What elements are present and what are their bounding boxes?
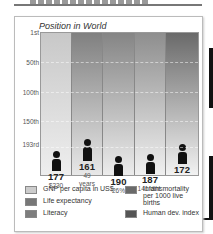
column-human-dev-index: 172 <box>166 33 198 175</box>
person-icon <box>115 156 122 163</box>
chart-card: Position in World 1st 50th 100th 150th 1… <box>14 16 203 232</box>
gridline <box>41 62 198 63</box>
y-tick-100th: 100th <box>17 89 39 96</box>
rank-value: 161 <box>79 162 95 172</box>
legend-item: Human dev. index <box>125 209 200 218</box>
rank-sublabel: 49 <box>83 172 90 180</box>
heading-rule <box>14 4 202 6</box>
column-literacy: 190 26% <box>103 33 135 175</box>
column-life-expectancy: 161 49 years <box>72 33 103 175</box>
legend-item: Literacy <box>25 209 115 218</box>
legend-right: Infant mortality per 1000 live births Hu… <box>125 185 200 221</box>
cut-off-heading <box>30 0 150 4</box>
page-edge-bar <box>209 48 213 108</box>
column-infant-mortality: 187 141 dths <box>135 33 166 175</box>
legend-swatch <box>25 198 37 206</box>
column-gnp: 177 $230 <box>41 33 72 175</box>
y-tick-150th: 150th <box>17 118 39 125</box>
legend-swatch <box>125 186 137 194</box>
person-icon <box>53 151 60 158</box>
figure-human-dev-index: 172 <box>166 144 198 175</box>
legend-item: Infant mortality per 1000 live births <box>125 185 200 206</box>
legend-swatch <box>125 210 137 218</box>
page-edge-bar <box>209 156 213 220</box>
y-tick-50th: 50th <box>17 59 39 66</box>
rank-value: 187 <box>142 175 158 185</box>
y-tick-1st: 1st <box>17 29 39 36</box>
legend-swatch <box>25 210 37 218</box>
page-edge-hook <box>203 218 211 220</box>
gridline <box>41 147 198 148</box>
chart-title: Position in World <box>39 21 107 31</box>
legend-swatch <box>25 186 37 194</box>
legend-left: GNP per capita in US$ Life expectancy Li… <box>25 185 115 221</box>
plot-area: 177 $230 161 49 years 190 26% 187 141 <box>40 32 199 176</box>
rank-value: 177 <box>48 172 64 182</box>
person-icon <box>84 139 91 146</box>
legend-item: Life expectancy <box>25 197 115 206</box>
rank-value: 172 <box>174 165 190 175</box>
gridline <box>41 92 198 93</box>
y-tick-193rd: 193rd <box>17 141 39 148</box>
legend-item: GNP per capita in US$ <box>25 185 115 194</box>
person-icon <box>147 154 154 161</box>
gridline <box>41 121 198 122</box>
